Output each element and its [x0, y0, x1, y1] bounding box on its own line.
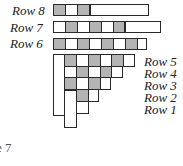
label-row-8: Row 8	[12, 4, 45, 17]
cell	[88, 89, 99, 102]
caption-fragment: e 7	[0, 141, 12, 154]
cell	[76, 101, 89, 114]
cell	[137, 38, 147, 50]
cell	[77, 4, 90, 16]
long-bar	[125, 21, 161, 33]
cell	[111, 66, 123, 78]
cell	[123, 54, 135, 67]
long-bar	[90, 4, 149, 16]
cell	[100, 77, 111, 90]
label-row-7: Row 7	[10, 21, 43, 34]
label-row-6: Row 6	[10, 37, 43, 50]
cell	[113, 21, 125, 33]
label-row-1: Row 1	[144, 103, 177, 116]
